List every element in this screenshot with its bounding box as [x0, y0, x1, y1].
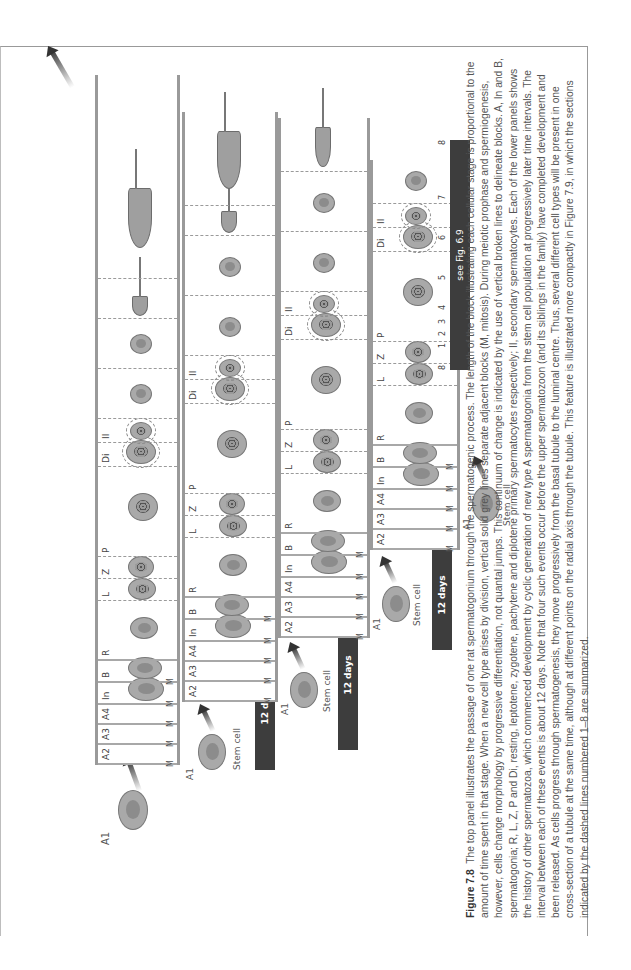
interval-bar-3: 12 days: [432, 540, 452, 650]
caption-text: The top panel illustrates the passage of…: [465, 58, 590, 918]
cell-a2: A2M: [98, 745, 177, 765]
panel-3-stem-label: Stem cell: [322, 670, 332, 712]
figure-number: Figure 7.8: [465, 869, 476, 918]
panel-1: A2M A3M A4M InM BM R L Z P Di II: [95, 75, 180, 765]
panel-3-stem-cell: [290, 672, 318, 708]
cell-l: L: [98, 579, 177, 601]
panel-2-stem-cell: [198, 734, 226, 770]
panel-3-a1-label: A1: [280, 703, 290, 715]
cell-di: Di: [98, 443, 177, 467]
cell-p: P: [98, 467, 177, 557]
panel-4-stem-label: Stem cell: [412, 584, 422, 626]
cell-b: BM: [98, 661, 177, 683]
cell-r: R: [98, 601, 177, 661]
stem-cell-a1: [118, 790, 148, 830]
cell-ii: II: [98, 419, 177, 443]
figure-caption: Figure 7.8 The top panel illustrates the…: [464, 58, 592, 918]
panel-2-a1-label: A1: [185, 768, 195, 780]
panel-2: A2M A3M A4M InM BM R L Z P Di II: [182, 112, 278, 702]
panel-4-a1-label: A1: [372, 618, 382, 630]
rotated-page: A1 A2M A3M A4M InM BM R L Z P Di II A1 S…: [0, 0, 631, 970]
cell-in: InM: [98, 683, 177, 705]
panel-3: A2M A3M A4M InM BM R L Z P Di II: [278, 118, 370, 638]
spermatozoon: [98, 79, 177, 279]
cell-a3: A3M: [98, 725, 177, 745]
panel-4-stem-cell: [382, 586, 410, 622]
panel-2-stem-label: Stem cell: [232, 728, 242, 770]
spermatid-early: [98, 369, 177, 419]
start-label-a1: A1: [100, 832, 111, 845]
spermatid-late: [98, 279, 177, 319]
spermatid-mid: [98, 319, 177, 369]
cell-a4: A4M: [98, 705, 177, 725]
cell-z: Z: [98, 557, 177, 579]
